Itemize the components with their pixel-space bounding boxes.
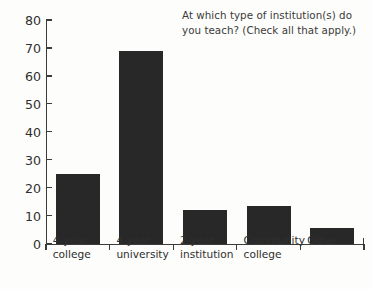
x-category-label-1-line-0: 4-year: [116, 234, 168, 248]
x-tick-1: [173, 244, 174, 250]
y-tick-label-40: 40: [25, 124, 41, 139]
plot-area: 01020304050607080: [46, 20, 364, 245]
y-tick-20: 20: [46, 187, 52, 188]
y-tick-30: 30: [46, 159, 52, 160]
x-category-label-2: 2-yearinstitution: [180, 234, 233, 261]
x-category-label-3-line-1: college: [244, 248, 305, 262]
x-category-label-0-line-0: 4-year: [53, 234, 91, 248]
y-tick-70: 70: [46, 47, 52, 48]
x-category-label-4: Other: [307, 234, 337, 248]
y-tick-60: 60: [46, 75, 52, 76]
x-category-label-0: 4-yearcollege: [53, 234, 91, 261]
y-tick-label-20: 20: [25, 180, 41, 195]
x-tick-4: [363, 244, 364, 250]
x-tick-origin: [45, 244, 46, 250]
x-tick-2: [236, 244, 237, 250]
bar-chart: At which type of institution(s) do you t…: [0, 0, 373, 289]
x-category-label-3-line-0: Community: [244, 234, 305, 248]
y-tick-50: 50: [46, 103, 52, 104]
x-tick-0: [109, 244, 110, 250]
y-tick-80: 80: [46, 19, 52, 20]
x-category-label-2-line-0: 2-year: [180, 234, 233, 248]
x-category-label-0-line-1: college: [53, 248, 91, 262]
y-tick-10: 10: [46, 215, 52, 216]
y-tick-label-30: 30: [25, 152, 41, 167]
y-axis-line: [46, 20, 47, 245]
x-category-label-4-line-0: Other: [307, 234, 337, 248]
x-category-label-1: 4-yearuniversity: [116, 234, 168, 261]
x-category-label-2-line-1: institution: [180, 248, 233, 262]
y-tick-label-70: 70: [25, 40, 41, 55]
y-tick-label-80: 80: [25, 13, 41, 28]
y-tick-label-60: 60: [25, 68, 41, 83]
y-tick-40: 40: [46, 131, 52, 132]
x-category-label-1-line-1: university: [116, 248, 168, 262]
y-tick-label-0: 0: [33, 236, 41, 251]
y-tick-0: 0: [46, 243, 52, 244]
y-tick-label-50: 50: [25, 96, 41, 111]
y-tick-label-10: 10: [25, 208, 41, 223]
x-category-label-3: Communitycollege: [244, 234, 305, 261]
bar-1: [119, 51, 163, 244]
